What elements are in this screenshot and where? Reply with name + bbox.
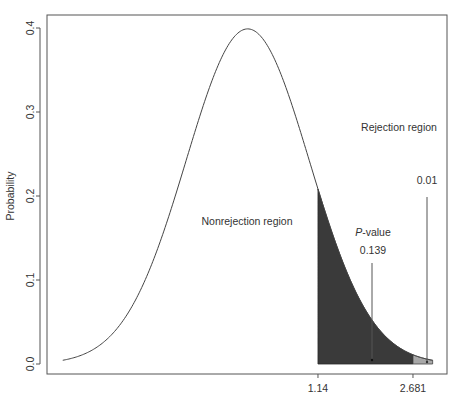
y-tick-label: 0.1 <box>24 273 36 288</box>
x-tick-label: 1.14 <box>308 382 329 394</box>
y-tick-label: 0.2 <box>24 189 36 204</box>
pvalue-number-label: 0.139 <box>360 244 386 256</box>
nonrejection-region-label: Nonrejection region <box>201 215 292 227</box>
rejection-region-label: Rejection region <box>361 121 437 133</box>
y-axis: 0.00.10.20.30.4 <box>24 21 40 372</box>
y-tick-label: 0.3 <box>24 105 36 120</box>
pvalue-shaded-area <box>318 189 413 364</box>
pvalue-label: P-value <box>355 226 391 238</box>
y-tick-label: 0.0 <box>24 357 36 372</box>
alpha-value-label: 0.01 <box>417 174 438 186</box>
pvalue-arrow-tip <box>371 359 373 361</box>
plot-frame <box>47 15 447 374</box>
x-tick-label: 2.681 <box>400 382 426 394</box>
y-axis-label: Probability <box>4 171 16 221</box>
y-tick-label: 0.4 <box>24 21 36 36</box>
x-axis: 1.142.681 <box>308 374 427 394</box>
density-curve <box>63 29 433 360</box>
normal-distribution-chart: 0.00.10.20.30.4 1.142.681 Probability No… <box>0 0 458 404</box>
alpha-arrow-tip <box>426 361 428 363</box>
pvalue-label-italic: P <box>355 226 362 238</box>
pvalue-label-rest: -value <box>362 226 391 238</box>
